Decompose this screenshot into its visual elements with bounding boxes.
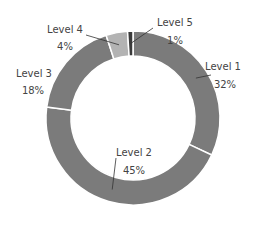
- donut-segments: [46, 31, 220, 205]
- label-level-5-name: Level 5: [157, 17, 193, 28]
- label-level-3-pct: 18%: [22, 85, 44, 96]
- donut-chart: Level 1 32% Level 2 45% Level 3 18% Leve…: [0, 0, 271, 237]
- label-level-2-pct: 45%: [123, 165, 145, 176]
- label-level-2-name: Level 2: [116, 147, 152, 158]
- label-level-4-pct: 4%: [57, 41, 73, 52]
- segment-level-5: [128, 31, 133, 56]
- label-level-5-pct: 1%: [167, 35, 183, 46]
- label-level-3-name: Level 3: [16, 68, 52, 79]
- label-level-1-pct: 32%: [214, 79, 236, 90]
- label-level-4-name: Level 4: [47, 24, 83, 35]
- segment-level-1: [133, 31, 220, 155]
- label-level-1-name: Level 1: [205, 61, 241, 72]
